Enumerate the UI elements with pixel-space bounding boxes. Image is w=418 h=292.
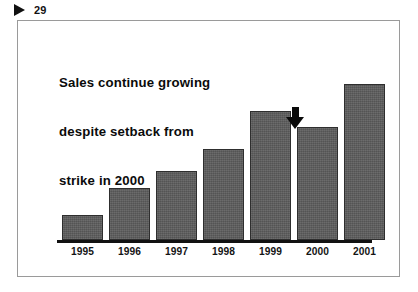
bar-chart-plot-area: 1995 1996 1997 1998 1999 2000 2001 [18, 21, 401, 278]
x-axis-label-2001: 2001 [344, 245, 385, 258]
x-axis-label-1995: 1995 [62, 245, 103, 258]
x-axis-label-1996: 1996 [109, 245, 150, 258]
slide-frame: Sales continue growing despite setback f… [17, 20, 400, 277]
x-axis-label-1997: 1997 [156, 245, 197, 258]
bar-2000 [297, 127, 338, 240]
bar-1999 [250, 111, 291, 240]
bar-1997 [156, 171, 197, 240]
bar-1998 [203, 149, 244, 240]
play-triangle-icon [14, 4, 25, 16]
down-arrow-icon [286, 107, 305, 129]
x-axis-line [57, 240, 372, 243]
page-header: 29 [0, 0, 418, 20]
bar-1995 [62, 215, 103, 240]
page-number: 29 [34, 3, 47, 17]
bar-2001 [344, 84, 385, 240]
bar-1996 [109, 188, 150, 240]
x-axis-label-1998: 1998 [203, 245, 244, 258]
arrow-head [286, 117, 304, 129]
x-axis-label-2000: 2000 [297, 245, 338, 258]
x-axis-label-1999: 1999 [250, 245, 291, 258]
